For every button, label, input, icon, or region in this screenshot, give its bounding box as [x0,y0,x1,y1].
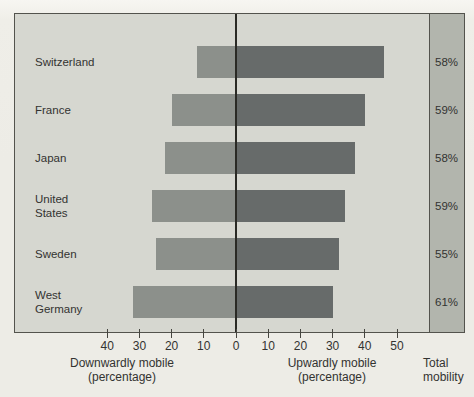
mobility-bar [172,94,365,126]
downward-segment [197,46,236,78]
x-axis-label-upward-line2: (percentage) [288,371,377,385]
total-mobility-value: 61% [429,295,464,309]
total-mobility-value: 59% [429,103,464,117]
total-mobility-value: 58% [429,151,464,165]
axis-tick-label: 0 [233,340,240,353]
x-axis-label-downward-line2: (percentage) [70,371,174,385]
x-axis-label-downward-line1: Downwardly mobile [70,357,174,371]
downward-segment [165,142,236,174]
mobility-bar [156,238,340,270]
downward-segment [156,238,237,270]
mobility-bar [197,46,384,78]
mobility-bar [152,190,345,222]
axis-tick-label: 30 [326,340,339,353]
plot-area: Switzerland58%France59%Japan58%United St… [14,13,465,333]
total-mobility-header: Total mobility [423,357,464,384]
category-label: Switzerland [35,38,125,86]
upward-segment [236,238,339,270]
axis-tick-label: 50 [390,340,403,353]
category-label: Sweden [35,230,125,278]
axis-tick-label: 10 [197,340,210,353]
x-axis-label-downward: Downwardly mobile (percentage) [70,357,174,384]
total-mobility-header-line2: mobility [423,371,464,385]
category-label: West Germany [35,278,125,326]
total-mobility-value: 58% [429,55,464,69]
category-label: United States [35,182,125,230]
downward-segment [152,190,236,222]
axis-tick-label: 40 [358,340,371,353]
upward-segment [236,94,365,126]
upward-segment [236,142,355,174]
total-mobility-value: 59% [429,199,464,213]
bars-layer: Switzerland58%France59%Japan58%United St… [15,14,464,332]
axis-tick-label: 20 [165,340,178,353]
category-label: Japan [35,134,125,182]
mobility-bar [133,286,333,318]
social-mobility-chart: Switzerland58%France59%Japan58%United St… [0,0,474,397]
total-mobility-value: 55% [429,247,464,261]
upward-segment [236,286,333,318]
mobility-bar [165,142,355,174]
axis-tick-label: 10 [262,340,275,353]
axis-tick-label: 30 [133,340,146,353]
x-axis-label-upward-line1: Upwardly mobile [288,357,377,371]
x-axis-label-upward: Upwardly mobile (percentage) [288,357,377,384]
total-mobility-header-line1: Total [423,357,464,371]
downward-segment [172,94,236,126]
upward-segment [236,190,345,222]
axis-tick-label: 40 [101,340,114,353]
category-label: France [35,86,125,134]
downward-segment [133,286,236,318]
upward-segment [236,46,384,78]
zero-baseline [235,14,237,332]
axis-tick-label: 20 [294,340,307,353]
